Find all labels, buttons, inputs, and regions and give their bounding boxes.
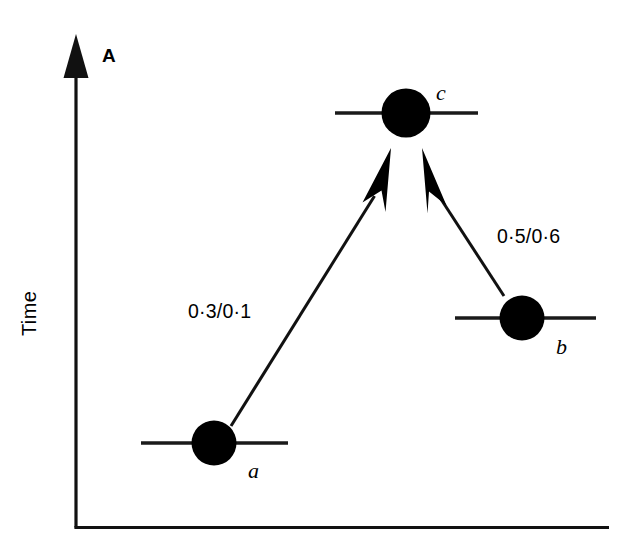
- node-c-label: c: [436, 80, 446, 105]
- diagram-canvas: A Time a b c 0·3/0·1 0·5/0·6: [0, 0, 628, 558]
- edge-group: [231, 148, 504, 426]
- figure-panel-a: A Time a b c 0·3/0·1 0·5/0·6: [0, 0, 628, 558]
- node-a-dot: [192, 421, 237, 466]
- edge-label-b-to-c: 0·5/0·6: [497, 225, 560, 247]
- node-group: [141, 89, 596, 466]
- edge-arrowhead-a-to-c-icon: [363, 148, 392, 212]
- node-b-label: b: [556, 334, 567, 359]
- node-c-dot: [382, 89, 431, 138]
- edge-label-a-to-c: 0·3/0·1: [188, 300, 251, 322]
- node-a: [141, 421, 288, 466]
- node-a-label: a: [248, 458, 259, 483]
- node-c: [335, 89, 478, 138]
- node-b-dot: [500, 296, 545, 341]
- panel-letter: A: [102, 45, 116, 66]
- axis-group: [64, 34, 610, 528]
- y-axis-title: Time: [18, 291, 40, 336]
- edge-line-b-to-c: [437, 193, 504, 296]
- node-b: [455, 296, 596, 341]
- y-axis-arrowhead-icon: [64, 34, 89, 78]
- edge-line-a-to-c: [231, 196, 375, 426]
